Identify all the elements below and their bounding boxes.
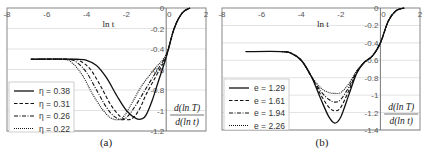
y-tick-label: -0.2 xyxy=(365,21,379,30)
y-tick-label: -0.4 xyxy=(150,45,164,54)
legend-entry: η = 0.31 xyxy=(39,99,70,109)
x-tick-label: 2 xyxy=(418,10,423,19)
panel-b-label: (b) xyxy=(316,136,329,149)
legend-entry: e = 1.94 xyxy=(254,108,285,118)
figure: -8-6-4-2020-0.2-0.4-0.6-0.8-1-1.2ln td(l… xyxy=(0,0,424,149)
y-tick-label: -0.8 xyxy=(365,74,379,83)
y-tick-label: -0.4 xyxy=(365,39,379,48)
y-tick-label: -1.2 xyxy=(150,127,164,136)
y-tick-label: 0 xyxy=(160,4,165,13)
y-tick-label: -1.2 xyxy=(365,109,379,118)
legend: η = 0.38η = 0.31η = 0.26η = 0.22 xyxy=(9,82,74,134)
legend: e = 1.29e = 1.61e = 1.94e = 2.26 xyxy=(224,79,289,131)
x-tick-label: -2 xyxy=(337,10,345,19)
x-tick-label: 0 xyxy=(167,10,172,19)
x-axis-label: ln t xyxy=(317,19,329,29)
legend-entry: e = 1.29 xyxy=(254,83,285,93)
legend-entry: η = 0.26 xyxy=(39,111,70,121)
y-axis-label-denominator: d(ln t) xyxy=(175,117,198,128)
x-tick-label: -4 xyxy=(83,10,91,19)
x-tick-label: -8 xyxy=(3,10,11,19)
panel-a-label: (a) xyxy=(100,136,113,149)
x-tick-label: -6 xyxy=(258,10,266,19)
panel-a: -8-6-4-2020-0.2-0.4-0.6-0.8-1-1.2ln td(l… xyxy=(3,4,208,136)
x-tick-label: -4 xyxy=(298,10,306,19)
x-tick-label: -8 xyxy=(218,10,226,19)
y-tick-label: -0.2 xyxy=(150,25,164,34)
legend-entry: e = 2.26 xyxy=(254,121,285,131)
x-tick-label: -6 xyxy=(43,10,51,19)
legend-entry: η = 0.38 xyxy=(39,86,70,96)
legend-entry: η = 0.22 xyxy=(39,124,70,134)
y-tick-label: 0 xyxy=(374,4,379,13)
y-axis-label-numerator: d(ln T) xyxy=(388,102,414,113)
y-axis-label-numerator: d(ln T) xyxy=(174,103,200,114)
y-tick-label: -1 xyxy=(157,107,165,116)
y-tick-label: -1.4 xyxy=(365,126,379,135)
x-tick-label: 2 xyxy=(204,10,209,19)
x-tick-label: 0 xyxy=(381,10,386,19)
x-axis-label: ln t xyxy=(103,19,115,29)
panel-b: -8-6-4-2020-0.2-0.4-0.6-0.8-1-1.2-1.4ln … xyxy=(218,4,422,135)
x-tick-label: -2 xyxy=(123,10,131,19)
legend-entry: e = 1.61 xyxy=(254,96,285,106)
y-axis-label-denominator: d(ln t) xyxy=(389,116,412,127)
y-tick-label: -1 xyxy=(371,91,379,100)
y-tick-label: -0.8 xyxy=(150,86,164,95)
